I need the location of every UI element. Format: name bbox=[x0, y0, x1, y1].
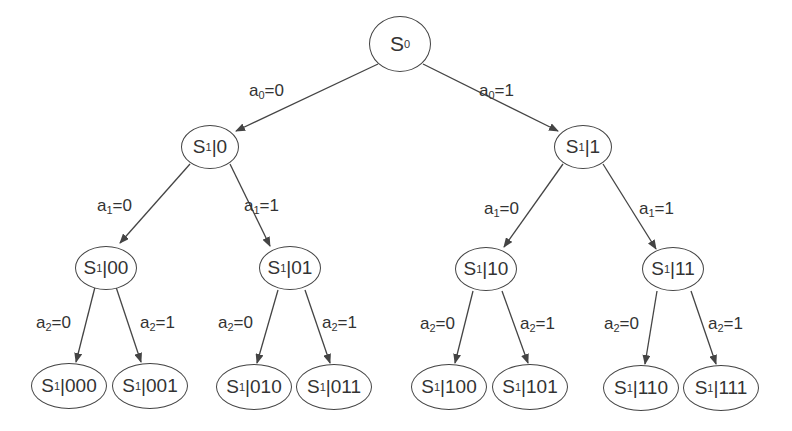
node-condition: |10 bbox=[482, 258, 508, 280]
edge-label-value: =1 bbox=[536, 314, 555, 333]
edge-label-value: =1 bbox=[156, 313, 175, 332]
edge-label-value: =0 bbox=[113, 196, 132, 215]
tree-node-s1_01: S1|01 bbox=[259, 246, 321, 290]
node-condition: |01 bbox=[286, 257, 312, 279]
edge-label: a2=1 bbox=[520, 314, 555, 334]
edge-arrow-s1_11-s1_110 bbox=[645, 291, 657, 364]
edge-label: a1=1 bbox=[244, 196, 279, 216]
tree-node-s1_00: S1|00 bbox=[75, 246, 137, 290]
node-condition: |00 bbox=[102, 257, 128, 279]
edge-label-value: =0 bbox=[500, 199, 519, 218]
edge-arrow-s1_00-s1_000 bbox=[76, 287, 95, 362]
tree-node-s1_0: S1|0 bbox=[181, 125, 239, 169]
tree-node-s1_010: S1|010 bbox=[216, 364, 292, 410]
tree-node-s1_011: S1|011 bbox=[296, 364, 372, 410]
edge-label-value: =0 bbox=[234, 313, 253, 332]
node-condition: |11 bbox=[670, 258, 695, 280]
edge-arrow-s1_01-s1_010 bbox=[257, 290, 278, 363]
edge-label-value: =0 bbox=[620, 314, 639, 333]
node-condition: |110 bbox=[633, 377, 668, 399]
node-state-symbol: S bbox=[84, 257, 97, 279]
edge-arrow-s1_10-s1_100 bbox=[455, 291, 473, 363]
edge-label-value: =0 bbox=[52, 313, 71, 332]
node-state-symbol: S bbox=[464, 258, 477, 280]
tree-node-s1_10: S1|10 bbox=[455, 247, 517, 291]
node-state-symbol: S bbox=[651, 258, 664, 280]
node-condition: |011 bbox=[326, 376, 361, 398]
edge-label-value: =1 bbox=[260, 196, 279, 215]
edge-label-value: =0 bbox=[265, 81, 284, 100]
node-state-symbol: S bbox=[566, 136, 579, 158]
node-state-symbol: S bbox=[307, 376, 320, 398]
edge-label: a2=1 bbox=[140, 313, 175, 333]
node-state-symbol: S bbox=[122, 375, 135, 397]
node-state-symbol: S bbox=[421, 376, 434, 398]
edge-label: a2=0 bbox=[604, 314, 639, 334]
node-condition: |100 bbox=[440, 376, 477, 398]
node-state-symbol: S bbox=[614, 377, 627, 399]
tree-node-s1_000: S1|000 bbox=[31, 363, 107, 409]
node-state-symbol: S bbox=[695, 377, 708, 399]
edge-label-value: =1 bbox=[724, 314, 743, 333]
tree-node-s0: S0 bbox=[369, 16, 431, 72]
edge-label-value: =1 bbox=[655, 199, 674, 218]
edge-label: a1=1 bbox=[639, 199, 674, 219]
tree-node-s1_11: S1|11 bbox=[642, 247, 704, 291]
tree-node-s1_110: S1|110 bbox=[603, 365, 679, 411]
edge-label: a1=0 bbox=[97, 196, 132, 216]
node-state-symbol: S bbox=[41, 375, 54, 397]
tree-node-s1_1: S1|1 bbox=[554, 125, 612, 169]
edge-label: a2=1 bbox=[708, 314, 743, 334]
tree-node-s1_111: S1|111 bbox=[683, 365, 759, 411]
node-state-symbol: S bbox=[390, 32, 404, 56]
edge-label: a0=1 bbox=[479, 81, 514, 101]
node-condition: |1 bbox=[585, 136, 601, 158]
edge-label-value: =0 bbox=[436, 314, 455, 333]
tree-node-s1_100: S1|100 bbox=[411, 364, 487, 410]
node-condition: |0 bbox=[212, 136, 228, 158]
edge-label-value: =1 bbox=[495, 81, 514, 100]
node-condition: |001 bbox=[141, 375, 178, 397]
edge-label: a2=0 bbox=[218, 313, 253, 333]
decision-tree-diagram: S0S1|0S1|1S1|00S1|01S1|10S1|11S1|000S1|0… bbox=[0, 0, 792, 431]
edge-label-value: =1 bbox=[338, 313, 357, 332]
node-state-symbol: S bbox=[193, 136, 206, 158]
edge-label: a2=1 bbox=[322, 313, 357, 333]
node-condition: |101 bbox=[521, 376, 558, 398]
node-condition: |010 bbox=[245, 376, 282, 398]
node-state-symbol: S bbox=[226, 376, 239, 398]
tree-node-s1_001: S1|001 bbox=[112, 363, 188, 409]
node-state-symbol: S bbox=[502, 376, 515, 398]
edge-label: a2=0 bbox=[36, 313, 71, 333]
node-state-symbol: S bbox=[268, 257, 281, 279]
edge-label: a1=0 bbox=[484, 199, 519, 219]
node-condition: |000 bbox=[60, 375, 97, 397]
node-condition: |111 bbox=[713, 377, 747, 399]
edge-arrow-s1_00-s1_001 bbox=[116, 287, 141, 362]
tree-node-s1_101: S1|101 bbox=[492, 364, 568, 410]
edge-label: a0=0 bbox=[249, 81, 284, 101]
edge-label: a2=0 bbox=[420, 314, 455, 334]
